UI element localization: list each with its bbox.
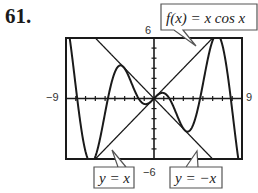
callout-fx-text: f(x) = x cos x bbox=[166, 10, 246, 27]
ymin-label: −6 bbox=[143, 166, 156, 178]
xmin-label: −9 bbox=[46, 91, 59, 103]
callout-y-equals-x-text: y = x bbox=[97, 170, 130, 186]
xmax-label: 9 bbox=[246, 91, 252, 103]
callout-y-equals-neg-x: y = −x bbox=[170, 151, 222, 188]
callout-y-equals-neg-x-text: y = −x bbox=[173, 170, 216, 186]
callout-y-equals-x: y = x bbox=[94, 150, 134, 188]
graph: −9 9 6 −6 f(x) = x cos x y = x y = −x bbox=[0, 0, 258, 193]
ymax-label: 6 bbox=[145, 24, 151, 36]
